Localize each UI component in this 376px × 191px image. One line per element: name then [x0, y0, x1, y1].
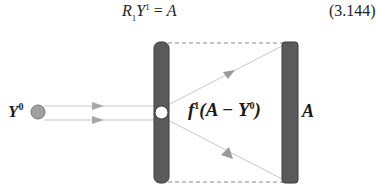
- target-label: A: [302, 101, 314, 122]
- source-dot: [31, 105, 45, 119]
- open-circle-node: [155, 106, 168, 119]
- arrow-icon: [92, 102, 104, 110]
- arrow-icon: [92, 116, 104, 124]
- right-bar: [282, 42, 298, 183]
- source-label: Y0: [8, 101, 23, 122]
- arrow-icon: [223, 70, 235, 79]
- output-line-bottom: [166, 119, 284, 180]
- function-label: f1(A − Y0): [188, 99, 261, 121]
- output-line-top: [166, 45, 284, 106]
